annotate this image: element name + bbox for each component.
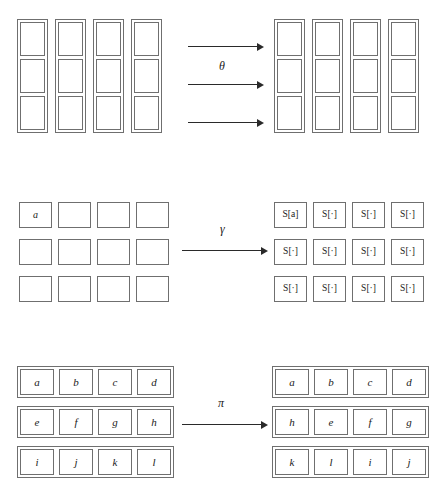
pi-right-panel: a b c d h e f g k l i j (272, 366, 429, 478)
cell: S[a] (274, 202, 307, 228)
pi-right-rowbox: h e f g (272, 406, 429, 438)
arrow-shaft (182, 250, 262, 251)
cell: S[·] (274, 276, 307, 302)
grid-row: S[·] S[·] S[·] S[·] (274, 276, 424, 302)
cell (20, 22, 45, 56)
pi-left-rowbox: i j k l (17, 446, 174, 478)
grid-row (19, 239, 169, 265)
cell (315, 22, 340, 56)
cell: S[·] (352, 202, 385, 228)
cell (136, 202, 169, 228)
cell (20, 96, 45, 130)
cell (58, 276, 91, 302)
theta-left-column (93, 19, 124, 133)
cell (136, 239, 169, 265)
cell (391, 96, 416, 130)
arrow-head (261, 421, 268, 429)
cell (97, 239, 130, 265)
pi-right-rowbox: k l i j (272, 446, 429, 478)
theta-right-column (350, 19, 381, 133)
cell (134, 59, 159, 93)
cell: f (353, 409, 387, 435)
cell: j (59, 449, 93, 475)
cell (58, 96, 83, 130)
cell (19, 239, 52, 265)
cell: a (275, 369, 309, 395)
cell (136, 276, 169, 302)
cell: S[·] (313, 276, 346, 302)
cell: k (275, 449, 309, 475)
cell: S[·] (352, 239, 385, 265)
cell: S[·] (391, 202, 424, 228)
cell: g (392, 409, 426, 435)
theta-right-column (274, 19, 305, 133)
theta-right-panel (274, 19, 419, 133)
cell: S[·] (274, 239, 307, 265)
theta-label: θ (219, 59, 225, 74)
theta-left-column (17, 19, 48, 133)
pi-left-rowbox: e f g h (17, 406, 174, 438)
cell: e (20, 409, 54, 435)
cell: h (137, 409, 171, 435)
cell: S[·] (313, 239, 346, 265)
arrow-shaft (188, 122, 258, 123)
gamma-arrow (182, 246, 268, 255)
pi-right-rowbox: a b c d (272, 366, 429, 398)
cell: k (98, 449, 132, 475)
cell: e (314, 409, 348, 435)
pi-left-panel: a b c d e f g h i j k l (17, 366, 174, 478)
arrow-head (257, 81, 264, 89)
cell (391, 59, 416, 93)
cell (353, 22, 378, 56)
theta-arrow-1 (188, 42, 264, 51)
cell: d (137, 369, 171, 395)
theta-left-column (131, 19, 162, 133)
cell (58, 22, 83, 56)
arrow-head (261, 247, 268, 255)
cell: S[·] (313, 202, 346, 228)
arrow-shaft (182, 424, 262, 425)
gamma-right-panel: S[a] S[·] S[·] S[·] S[·] S[·] S[·] S[·] … (274, 202, 424, 302)
cell: a (19, 202, 52, 228)
cell (315, 59, 340, 93)
cell: d (392, 369, 426, 395)
cell: c (98, 369, 132, 395)
pi-left-rowbox: a b c d (17, 366, 174, 398)
cell: i (20, 449, 54, 475)
cell: S[·] (391, 239, 424, 265)
cell: S[·] (391, 276, 424, 302)
cell (277, 96, 302, 130)
cell (391, 22, 416, 56)
cell (58, 202, 91, 228)
grid-row (19, 276, 169, 302)
cell: h (275, 409, 309, 435)
pi-arrow (182, 420, 268, 429)
cell (20, 59, 45, 93)
cell (97, 202, 130, 228)
grid-row: S[·] S[·] S[·] S[·] (274, 239, 424, 265)
cell: g (98, 409, 132, 435)
cell: j (392, 449, 426, 475)
cell: a (20, 369, 54, 395)
cell (353, 96, 378, 130)
arrow-shaft (188, 84, 258, 85)
cell (96, 59, 121, 93)
cell: b (314, 369, 348, 395)
cell: l (314, 449, 348, 475)
theta-arrow-3 (188, 118, 264, 127)
cell (134, 96, 159, 130)
theta-arrow-2 (188, 80, 264, 89)
cell (353, 59, 378, 93)
arrow-head (257, 43, 264, 51)
cell (19, 276, 52, 302)
cell (96, 22, 121, 56)
cell: f (59, 409, 93, 435)
arrow-head (257, 119, 264, 127)
cell: c (353, 369, 387, 395)
cell (315, 96, 340, 130)
gamma-left-panel: a (19, 202, 169, 302)
theta-left-column (55, 19, 86, 133)
cell (58, 239, 91, 265)
arrow-shaft (188, 46, 258, 47)
cell: b (59, 369, 93, 395)
